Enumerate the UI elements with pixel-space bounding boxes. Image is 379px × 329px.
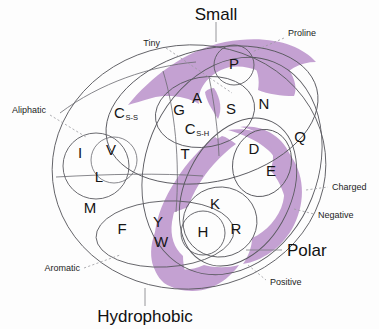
leader-positive bbox=[248, 265, 266, 280]
residue-tryptophan: W bbox=[154, 233, 169, 250]
label-charged: Charged bbox=[332, 182, 367, 192]
label-negative: Negative bbox=[318, 210, 354, 220]
residue-asparagine: N bbox=[259, 95, 270, 112]
residue-alanine: A bbox=[192, 89, 202, 106]
label-aromatic: Aromatic bbox=[44, 263, 80, 273]
residue-glutamate: E bbox=[266, 162, 276, 179]
label-small: Small bbox=[195, 5, 238, 24]
residue-tyrosine: Y bbox=[153, 213, 163, 230]
label-tiny: Tiny bbox=[143, 38, 160, 48]
residue-phenylalanine: F bbox=[117, 220, 126, 237]
residue-glutamine: Q bbox=[294, 128, 306, 145]
set-outline-aliphatic bbox=[63, 133, 129, 199]
residue-valine: V bbox=[106, 141, 116, 158]
residue-cysteine-free-thiol: CS-H bbox=[185, 120, 209, 138]
residue-glycine: G bbox=[173, 101, 185, 118]
label-polar: Polar bbox=[287, 241, 327, 260]
label-positive: Positive bbox=[270, 277, 302, 287]
residue-methionine: M bbox=[84, 199, 97, 216]
residue-histidine: H bbox=[198, 223, 209, 240]
residue-lysine: K bbox=[210, 195, 220, 212]
residue-proline: P bbox=[229, 55, 239, 72]
region-small-polar-wedge bbox=[205, 88, 220, 119]
venn-svg-canvas: PGASNCS-SCS-HQTDEIVLMFYWKHR Small Polar … bbox=[0, 0, 379, 329]
venn-diagram-figure: PGASNCS-SCS-HQTDEIVLMFYWKHR Small Polar … bbox=[0, 0, 379, 329]
residue-serine: S bbox=[226, 100, 236, 117]
residue-threonine: T bbox=[180, 145, 189, 162]
label-proline: Proline bbox=[288, 28, 316, 38]
leader-aliphatic bbox=[50, 115, 86, 137]
residue-cysteine-disulfide: CS-S bbox=[114, 104, 138, 122]
residue-aspartate: D bbox=[249, 140, 260, 157]
leader-aromatic bbox=[84, 255, 120, 268]
label-aliphatic: Aliphatic bbox=[12, 105, 47, 115]
residue-isoleucine: I bbox=[78, 144, 82, 161]
residue-leucine: L bbox=[95, 168, 103, 185]
residue-arginine: R bbox=[231, 220, 242, 237]
leader-charged bbox=[306, 187, 328, 190]
label-hydrophobic: Hydrophobic bbox=[97, 307, 193, 326]
